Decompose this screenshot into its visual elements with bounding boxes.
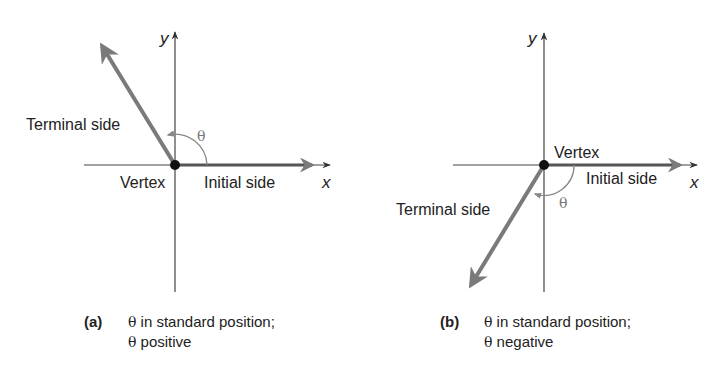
y-axis-label: y — [159, 29, 170, 48]
caption-a: (a) θ in standard position; θ positive — [84, 312, 344, 356]
theta-label: θ — [559, 195, 567, 211]
terminal-side-label: Terminal side — [396, 201, 490, 218]
caption-tag: (a) — [84, 312, 102, 332]
caption-line2: negative — [492, 333, 553, 350]
x-axis-label: x — [321, 173, 331, 192]
initial-side-label: Initial side — [586, 170, 657, 187]
terminal-side-ray — [102, 46, 175, 165]
vertex-label: Vertex — [120, 174, 165, 191]
caption-b: (b) θ in standard position; θ negative — [440, 312, 700, 356]
caption-line2: positive — [136, 333, 191, 350]
initial-side-label: Initial side — [204, 174, 275, 191]
panel-b: y x Terminal side Vertex Initial side θ — [396, 29, 699, 292]
vertex-dot — [539, 160, 549, 170]
panel-a: y x Terminal side Vertex Initial side θ — [26, 29, 331, 292]
caption-line1: in standard position; — [492, 313, 630, 330]
caption-tag: (b) — [440, 312, 459, 332]
theta-label: θ — [197, 128, 205, 144]
vertex-label: Vertex — [554, 144, 599, 161]
y-axis-label: y — [527, 29, 538, 48]
caption-text: θ in standard position; θ positive — [128, 312, 275, 352]
caption-text: θ in standard position; θ negative — [484, 312, 631, 352]
terminal-side-ray — [471, 165, 544, 285]
terminal-side-label: Terminal side — [26, 116, 120, 133]
x-axis-label: x — [689, 173, 699, 192]
vertex-dot — [170, 160, 180, 170]
caption-line1: in standard position; — [136, 313, 274, 330]
